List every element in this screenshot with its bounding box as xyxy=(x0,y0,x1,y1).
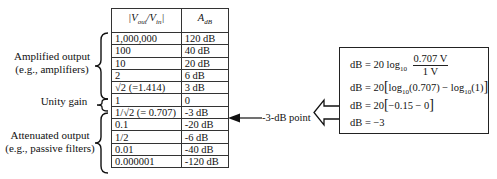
formula-line-1: dB = 20 log10 0.707 V 1 V xyxy=(350,53,448,78)
hollow-arrow-icon xyxy=(314,100,340,125)
fraction: 0.707 V 1 V xyxy=(413,53,449,78)
formula-line-3: dB = 20[−0.15 − 0] xyxy=(350,100,434,111)
pointer-arrowhead-icon xyxy=(228,114,240,123)
minus-3db-point-label: -3-dB point xyxy=(262,111,311,124)
formula-line-4: dB = −3 xyxy=(350,117,385,128)
attenuated-brace-icon xyxy=(95,113,108,173)
formula-line-2: dB = 20[log10(0.707) − log10(1)] xyxy=(350,82,488,96)
amplified-brace-icon xyxy=(95,33,108,99)
unity-brace-icon xyxy=(97,99,108,111)
formula-box: dB = 20 log10 0.707 V 1 V dB = 20[log10(… xyxy=(339,47,489,134)
